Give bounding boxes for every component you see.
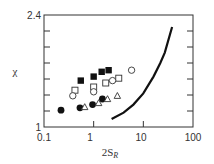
data-markers [58,67,135,114]
filled-square-marker [105,67,111,73]
open-circle-marker [90,89,96,95]
open-circle-marker [70,93,76,99]
x-axis-label-subscript: R [112,151,118,160]
chart: 0.1 1 10 100 2.4 1 χ 2SR [0,0,214,164]
filled-circle-marker [89,101,96,108]
x-tick-label-1: 1 [87,132,93,143]
x-axis-label-main: 2S [102,146,114,158]
y-axis-label: χ [12,65,18,77]
open-circle-marker [128,67,134,73]
open-circle-marker [109,77,115,83]
y-tick-label-2.4: 2.4 [27,10,41,21]
open-triangle-marker [114,93,120,99]
filled-square-marker [90,73,96,79]
x-tick-label-100: 100 [185,132,202,143]
x-tick-label-10: 10 [135,132,147,143]
filled-square-marker [98,69,104,75]
filled-circle-marker [58,107,65,114]
filled-square-marker [78,77,84,83]
x-axis-label: 2SR [102,146,119,160]
theory-curve [112,27,173,119]
open-square-marker [116,75,122,81]
x-tick-label-0.1: 0.1 [37,132,51,143]
open-square-marker [103,80,109,86]
y-tick-label-1: 1 [35,122,41,133]
